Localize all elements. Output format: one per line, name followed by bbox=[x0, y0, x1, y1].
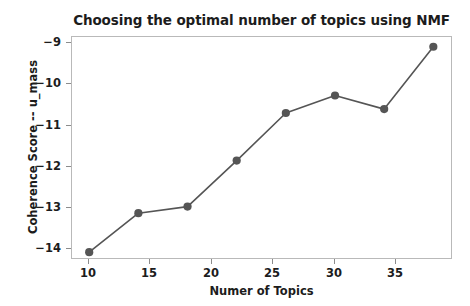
line-series-svg bbox=[72, 37, 453, 260]
data-point bbox=[282, 109, 290, 117]
x-tick-label: 20 bbox=[191, 266, 231, 280]
x-tick-label: 15 bbox=[129, 266, 169, 280]
x-tick-label: 30 bbox=[314, 266, 354, 280]
data-point bbox=[183, 202, 191, 210]
x-tick-label: 10 bbox=[68, 266, 108, 280]
data-point bbox=[380, 105, 388, 113]
data-point bbox=[233, 156, 241, 164]
data-point bbox=[331, 91, 339, 99]
y-axis-label: Coherence Score -- u_mass bbox=[26, 32, 40, 262]
x-tick-label: 35 bbox=[375, 266, 415, 280]
x-tick-label: 25 bbox=[252, 266, 292, 280]
data-point bbox=[85, 248, 93, 256]
x-axis-label: Numer of Topics bbox=[71, 284, 452, 298]
chart-figure: Choosing the optimal number of topics us… bbox=[0, 0, 470, 306]
data-point bbox=[134, 209, 142, 217]
data-point bbox=[429, 43, 437, 51]
series-markers bbox=[85, 43, 437, 257]
chart-title: Choosing the optimal number of topics us… bbox=[71, 12, 452, 28]
plot-area bbox=[71, 36, 452, 259]
series-line bbox=[89, 47, 433, 252]
